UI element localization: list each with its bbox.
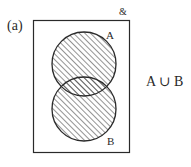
operation-label: A ∪ B — [146, 74, 183, 90]
set-b-label: B — [107, 135, 114, 147]
set-a-label: A — [106, 29, 114, 41]
